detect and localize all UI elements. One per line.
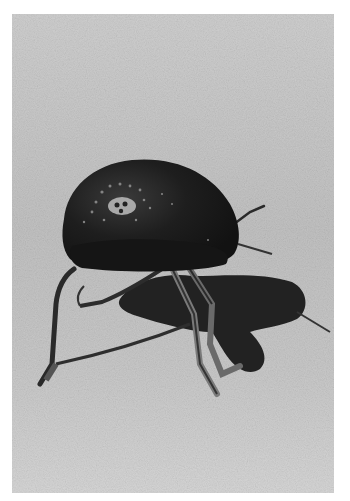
beetle-photo [12, 14, 334, 493]
beetle-illustration [12, 14, 334, 493]
